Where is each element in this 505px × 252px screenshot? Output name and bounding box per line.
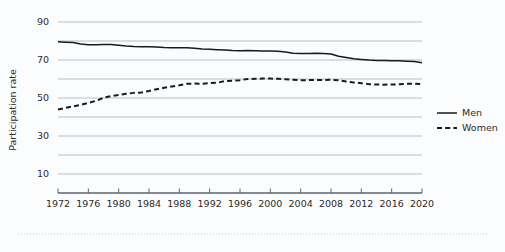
x-tick-label: 1980 <box>107 198 131 209</box>
y-tick-label: 50 <box>37 92 49 103</box>
x-tick-label: 1992 <box>198 198 222 209</box>
line-chart: 1030507090 19721976198019841988199219962… <box>0 0 505 252</box>
chart-background <box>0 0 505 252</box>
chart-figure: 1030507090 19721976198019841988199219962… <box>0 0 505 252</box>
x-tick-label: 1976 <box>76 198 100 209</box>
x-tick-label: 1988 <box>167 198 191 209</box>
legend-label-women: Women <box>462 122 498 133</box>
y-axis-label: Participation rate <box>7 69 18 151</box>
x-tick-label: 2012 <box>349 198 373 209</box>
x-tick-label: 2016 <box>380 198 404 209</box>
y-tick-label: 70 <box>37 54 49 65</box>
x-tick-label: 1972 <box>46 198 70 209</box>
y-tick-label: 90 <box>37 16 49 27</box>
x-tick-label: 1996 <box>228 198 252 209</box>
x-tick-label: 2008 <box>319 198 343 209</box>
x-tick-label: 2000 <box>258 198 282 209</box>
legend-label-men: Men <box>462 107 482 118</box>
x-tick-label: 1984 <box>137 198 161 209</box>
x-tick-label: 2004 <box>289 198 313 209</box>
y-tick-label: 30 <box>37 130 49 141</box>
x-tick-label: 2020 <box>410 198 434 209</box>
y-tick-label: 10 <box>37 168 49 179</box>
